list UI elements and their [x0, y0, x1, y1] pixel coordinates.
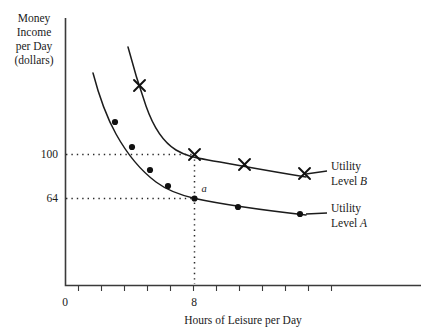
markers-utility-level-b — [134, 80, 310, 179]
y-axis-title-line-4: (dollars) — [15, 54, 54, 67]
legend-leader-b — [306, 171, 327, 174]
y-axis-title-line-3: per Day — [16, 40, 53, 53]
legend-label-a-line2: Level A — [331, 217, 368, 229]
y-axis-title-line-2: Income — [17, 26, 51, 38]
legend-label-a-line1: Utility — [331, 202, 361, 215]
legend-label-a-prefix: Level — [331, 217, 360, 229]
point-label-a: a — [201, 183, 206, 194]
x-tick-label-8: 8 — [191, 296, 197, 308]
legend-label-b-line2: Level B — [331, 175, 367, 187]
legend-label-a-letter: A — [359, 217, 368, 229]
curve-utility-level-a — [93, 73, 306, 215]
y-axis-title-line-1: Money — [18, 12, 51, 25]
chart-canvas: Money Income per Day (dollars) 100 64 — [0, 0, 437, 334]
axis-lines — [66, 18, 422, 286]
indifference-curve-figure: Money Income per Day (dollars) 100 64 — [0, 0, 437, 334]
legend-label-b-line1: Utility — [331, 160, 361, 173]
x-tick-label-0: 0 — [62, 296, 68, 308]
y-tick-label-64: 64 — [47, 192, 59, 204]
x-axis-title: Hours of Leisure per Day — [184, 314, 302, 327]
y-tick-label-100: 100 — [41, 148, 59, 160]
legend-label-b-prefix: Level — [331, 175, 360, 187]
x-axis-ticks — [79, 286, 332, 292]
legend-leader-a — [306, 213, 327, 214]
curve-utility-level-b — [128, 47, 306, 177]
legend-label-b-letter: B — [360, 175, 367, 187]
